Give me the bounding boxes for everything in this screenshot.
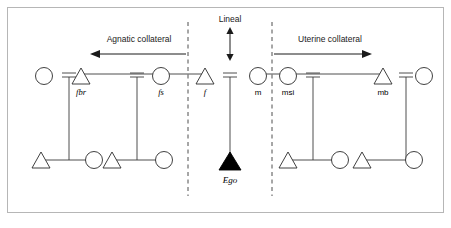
node-msi-daughter-circle[interactable] [332, 152, 349, 169]
node-mb-triangle[interactable] [374, 68, 392, 84]
marriage-tie-fbr [62, 73, 76, 160]
marriage-tie-fs [130, 73, 144, 160]
node-fbr-triangle[interactable] [72, 68, 90, 84]
kinship-diagram-figure: Lineal Agnatic collateral Uterine collat… [0, 0, 451, 228]
zone-label-uterine: Uterine collateral [298, 34, 362, 44]
node-fs-circle[interactable] [153, 68, 170, 85]
node-label-m: m [255, 88, 262, 97]
agnatic-left-arrow [90, 50, 186, 58]
node-ego-filled-triangle[interactable] [219, 152, 241, 170]
node-fbr-wife-circle[interactable] [36, 68, 53, 85]
node-label-mb: mb [377, 88, 389, 97]
zone-label-agnatic: Agnatic collateral [107, 34, 172, 44]
node-label-fbr: fbr [76, 87, 87, 97]
node-fs-daughter-circle[interactable] [156, 152, 173, 169]
node-msi-circle[interactable] [280, 68, 297, 85]
node-label-msi: msi [282, 88, 295, 97]
node-f-triangle[interactable] [196, 68, 214, 84]
marriage-tie-msi [306, 73, 320, 160]
node-label-fs: fs [158, 87, 164, 97]
uterine-right-arrow [274, 50, 372, 58]
lineal-double-arrow [226, 27, 233, 61]
zone-label-lineal: Lineal [219, 14, 242, 24]
node-mb-daughter-circle[interactable] [406, 152, 423, 169]
node-m-circle[interactable] [250, 68, 267, 85]
node-mb-wife-circle[interactable] [416, 68, 433, 85]
node-label-ego: Ego [222, 175, 238, 185]
node-fbr-daughter-circle[interactable] [86, 152, 103, 169]
kinship-diagram-canvas: Lineal Agnatic collateral Uterine collat… [0, 0, 451, 228]
marriage-tie-parents [223, 73, 237, 160]
marriage-tie-mb [399, 73, 413, 160]
node-label-f: f [204, 87, 208, 97]
